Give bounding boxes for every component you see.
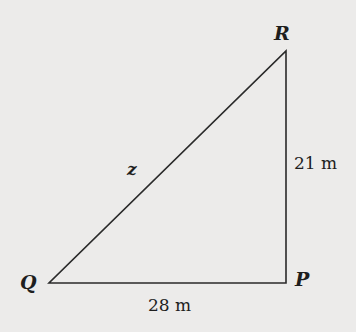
triangle-qpr <box>49 51 286 283</box>
vertex-label-q: Q <box>20 271 37 293</box>
vertex-label-r: R <box>273 22 290 44</box>
side-label-qp: 28 m <box>148 295 191 315</box>
triangle-diagram: R Q P z 21 m 28 m <box>0 0 356 332</box>
side-label-pr: 21 m <box>294 153 337 173</box>
vertex-label-p: P <box>294 268 310 290</box>
hypotenuse-label-z: z <box>126 159 137 179</box>
